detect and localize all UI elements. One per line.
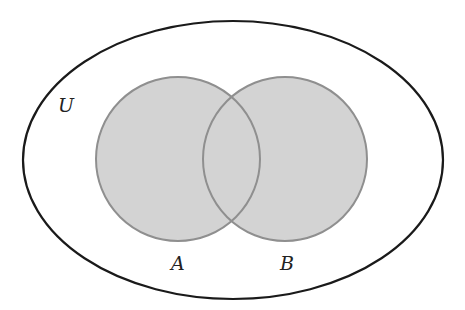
set-b-label: B: [279, 252, 294, 274]
universe-label: U: [58, 94, 75, 116]
set-a-label: A: [169, 252, 185, 274]
venn-diagram: U A B: [0, 0, 465, 310]
